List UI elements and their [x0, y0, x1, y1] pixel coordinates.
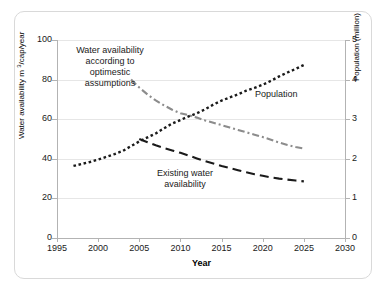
annotation-optimistic-availability: Water availability according to optimest…: [60, 45, 160, 89]
annotation-optimistic-line2: according to: [60, 56, 160, 67]
annotation-existing-availability: Existing water availability: [137, 168, 233, 190]
annotation-optimistic-line3: optimestic: [60, 67, 160, 78]
series-layer: [0, 0, 391, 298]
annotation-optimistic-line4: assumptions: [60, 78, 160, 89]
annotation-existing-line1: Existing water: [137, 168, 233, 179]
annotation-population: Population: [255, 89, 325, 100]
annotation-existing-line2: availability: [137, 179, 233, 190]
chart-figure: 100 80 60 40 20 0 5 4 3 2 1 0 1995 2000 …: [0, 0, 391, 298]
annotation-optimistic-line1: Water availability: [60, 45, 160, 56]
